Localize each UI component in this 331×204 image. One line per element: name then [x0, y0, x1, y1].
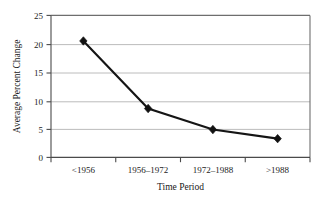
y-tickmarks	[47, 15, 52, 157]
y-tick-label-25: 25	[34, 11, 44, 21]
plot-frame	[51, 15, 310, 157]
y-axis-title: Average Percent Change	[12, 40, 22, 134]
x-tickmarks	[51, 157, 310, 162]
chart-figure: 0 5 10 15 20 25 <1956 1956–1972 1972–198…	[0, 0, 331, 204]
x-tick-label-0: <1956	[72, 165, 96, 175]
x-tick-label-1: 1956–1972	[128, 165, 169, 175]
data-point-3	[274, 134, 281, 142]
series-line	[83, 41, 277, 139]
x-axis-title: Time Period	[157, 182, 204, 192]
line-chart: 0 5 10 15 20 25 <1956 1956–1972 1972–198…	[0, 0, 331, 204]
x-tick-labels: <1956 1956–1972 1972–1988 >1988	[72, 165, 290, 175]
gridlines	[51, 45, 310, 130]
data-point-2	[209, 125, 216, 133]
y-tick-label-5: 5	[39, 125, 44, 135]
data-markers	[80, 37, 282, 143]
x-tick-label-2: 1972–1988	[193, 165, 234, 175]
y-tick-label-0: 0	[39, 153, 44, 163]
y-tick-label-15: 15	[34, 68, 44, 78]
y-tick-label-20: 20	[34, 40, 44, 50]
y-tick-labels: 0 5 10 15 20 25	[34, 11, 44, 163]
x-tick-label-3: >1988	[266, 165, 290, 175]
y-tick-label-10: 10	[34, 97, 44, 107]
